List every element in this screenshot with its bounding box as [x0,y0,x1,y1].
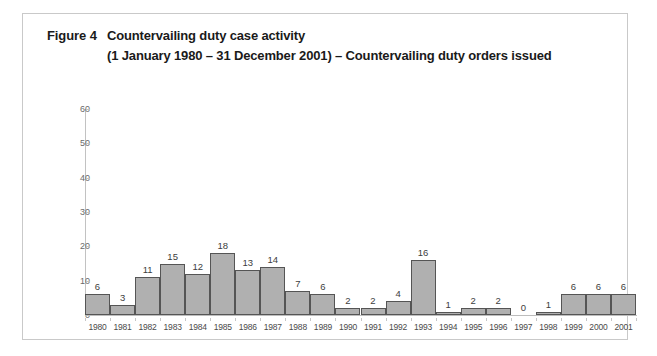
figure-caption: Figure 4 Countervailing duty case activi… [47,26,607,66]
x-axis-tick-mark [310,318,311,321]
x-axis-tick-mark [285,318,286,321]
x-axis-tick-mark [335,318,336,321]
x-axis-tick-mark [160,318,161,321]
x-axis-tick-label: 1999 [561,322,586,332]
x-axis-tick-mark [235,318,236,321]
bar[interactable] [361,308,386,315]
bar-group[interactable]: 12 [185,109,210,315]
bar-group[interactable]: 13 [235,109,260,315]
caption-line-1: Figure 4 Countervailing duty case activi… [47,26,607,46]
x-axis-tick-mark [536,318,537,321]
bar-group[interactable]: 4 [386,109,411,315]
x-axis-tick-label: 1980 [85,322,110,332]
x-axis-tick-mark [511,318,512,321]
bar[interactable] [185,274,210,315]
x-axis-tick-mark [386,318,387,321]
bar[interactable] [285,291,310,315]
x-axis-tick-label: 1985 [210,322,235,332]
bar[interactable] [335,308,360,315]
x-axis-tick-label: 1996 [486,322,511,332]
bar-group[interactable]: 16 [411,109,436,315]
x-axis-tick-label: 1994 [436,322,461,332]
bar-group[interactable]: 15 [160,109,185,315]
bar[interactable] [386,301,411,315]
x-axis-tick-mark [185,318,186,321]
x-axis-tick-label: 1981 [110,322,135,332]
x-axis-tick-mark [586,318,587,321]
figure-title-line-2: (1 January 1980 – 31 December 2001) – Co… [107,46,552,66]
x-axis-tick-label: 1983 [160,322,185,332]
x-axis-tick-label: 2000 [586,322,611,332]
x-axis-tick-label: 1992 [386,322,411,332]
figure-frame: Figure 4 Countervailing duty case activi… [22,13,628,340]
x-axis-tick-label: 1997 [511,322,536,332]
bar-group[interactable]: 6 [310,109,335,315]
x-axis-tick-label: 1989 [310,322,335,332]
x-axis-tick-label: 1991 [361,322,386,332]
bar[interactable] [536,312,561,315]
x-axis-tick-label: 1988 [285,322,310,332]
x-axis-tick-label: 1998 [536,322,561,332]
bar-group[interactable]: 6 [611,109,636,315]
bar-group[interactable]: 18 [210,109,235,315]
x-axis-tick-mark [210,318,211,321]
x-axis-tick-mark [636,318,637,321]
bar[interactable] [235,270,260,315]
x-axis-tick-label: 1982 [135,322,160,332]
bar[interactable] [461,308,486,315]
bar-group[interactable]: 11 [135,109,160,315]
bar-group[interactable]: 2 [461,109,486,315]
bar[interactable] [611,294,636,315]
x-axis-tick-label: 1987 [260,322,285,332]
bar[interactable] [586,294,611,315]
bar-group[interactable]: 6 [85,109,110,315]
x-axis-tick-label: 1995 [461,322,486,332]
bar[interactable] [260,267,285,315]
x-axis-tick-mark [361,318,362,321]
x-axis-tick-label: 1986 [235,322,260,332]
x-axis-tick-mark [110,318,111,321]
x-axis-tick-label: 1984 [185,322,210,332]
x-axis-tick-label: 1990 [335,322,360,332]
x-axis-tick-mark [461,318,462,321]
bar-value-label: 6 [605,281,642,292]
bar[interactable] [110,305,135,315]
bar-group[interactable]: 2 [486,109,511,315]
bar-group[interactable]: 1 [436,109,461,315]
x-axis-tick-mark [561,318,562,321]
bar-chart: 0102030405060 63111512181314762241612201… [61,96,643,336]
bar[interactable] [135,277,160,315]
x-axis-tick-label: 1993 [411,322,436,332]
x-axis-tick-mark [411,318,412,321]
bar-group[interactable]: 3 [110,109,135,315]
x-axis-baseline [85,315,637,316]
x-axis-labels: 1980198119821983198419851986198719881989… [85,318,636,336]
figure-title-line-1: Countervailing duty case activity [107,26,305,46]
x-axis-tick-mark [611,318,612,321]
x-axis-tick-mark [260,318,261,321]
bar-group[interactable]: 2 [335,109,360,315]
bars-container: 63111512181314762241612201666 [85,109,636,315]
caption-line-2: (1 January 1980 – 31 December 2001) – Co… [47,46,607,66]
x-axis-tick-mark [85,318,86,321]
figure-number-label: Figure 4 [47,26,107,46]
bar[interactable] [561,294,586,315]
x-axis-tick-mark [135,318,136,321]
bar-group[interactable]: 2 [361,109,386,315]
x-axis-tick-mark [436,318,437,321]
bar-group[interactable]: 0 [511,109,536,315]
bar[interactable] [436,312,461,315]
x-axis-tick-mark [486,318,487,321]
x-axis-tick-label: 2001 [611,322,636,332]
